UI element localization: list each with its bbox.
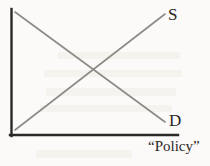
supply-curve-label: S xyxy=(168,6,178,23)
supply-curve xyxy=(15,14,165,130)
demand-curve xyxy=(15,12,165,122)
demand-curve-label: D xyxy=(169,112,181,129)
x-axis-label: “Policy” xyxy=(148,139,200,154)
supply-demand-figure: S D “Policy” xyxy=(0,0,210,166)
